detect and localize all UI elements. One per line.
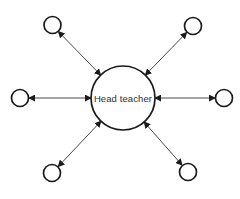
satellite-node-left	[12, 90, 29, 107]
satellite-node-top-right	[185, 18, 202, 35]
satellite-node-top-left	[44, 17, 61, 34]
center-node-label: Head teacher	[94, 93, 152, 104]
diagram-canvas: Head teacher	[0, 0, 240, 199]
connector-bottom-left	[58, 121, 101, 166]
connector-top-left	[58, 32, 100, 76]
connector-bottom-right	[144, 122, 182, 165]
satellite-node-right	[216, 90, 233, 107]
satellite-node-bottom-left	[44, 165, 61, 182]
connector-top-right	[145, 33, 186, 76]
satellite-node-bottom-right	[180, 164, 197, 181]
star-network-diagram: Head teacher	[0, 0, 240, 199]
